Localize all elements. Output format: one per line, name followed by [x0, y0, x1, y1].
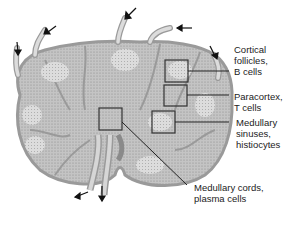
label-line: plasma cells — [194, 193, 264, 204]
label-line: histiocytes — [236, 139, 280, 150]
label-line: Medullary — [236, 117, 280, 128]
label-line: Paracortex, — [234, 91, 283, 102]
label-line: B cells — [234, 66, 268, 77]
label-medullary-sinuses: Medullary sinuses, histiocytes — [236, 117, 280, 150]
label-line: sinuses, — [236, 128, 280, 139]
label-medullary-cords: Medullary cords, plasma cells — [194, 182, 264, 204]
label-paracortex: Paracortex, T cells — [234, 91, 283, 113]
label-line: Cortical — [234, 44, 268, 55]
label-line: Medullary cords, — [194, 182, 264, 193]
label-cortical-follicles: Cortical follicles, B cells — [234, 44, 268, 77]
label-line: T cells — [234, 102, 283, 113]
label-line: follicles, — [234, 55, 268, 66]
